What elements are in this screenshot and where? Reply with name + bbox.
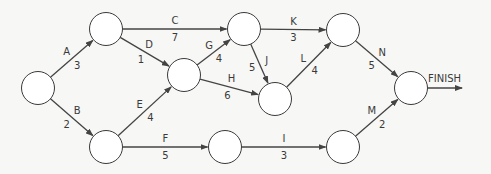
- activity-duration-l: 4: [312, 65, 318, 76]
- event-node-n7: [259, 83, 292, 116]
- activity-duration-i: 3: [281, 150, 287, 161]
- activity-duration-g: 4: [216, 53, 222, 64]
- activity-arrow-b: [50, 99, 92, 136]
- activity-arrow-e: [118, 87, 171, 136]
- activity-duration-k: 3: [290, 32, 296, 43]
- activity-name-i: I: [283, 133, 286, 144]
- activity-name-h: H: [228, 73, 236, 84]
- network-diagram: A3B2C7D1E4F5G4H6I3J5K3L4M2N5 FINISH: [0, 0, 491, 174]
- activity-duration-m: 2: [379, 119, 385, 130]
- activity-name-f: F: [163, 133, 169, 144]
- activity-duration-b: 2: [64, 119, 70, 130]
- activity-name-b: B: [74, 105, 81, 116]
- event-node-n6: [327, 14, 360, 47]
- activity-name-c: C: [172, 15, 179, 26]
- activity-duration-n: 5: [369, 60, 375, 71]
- activity-name-a: A: [63, 46, 70, 57]
- finish-label: FINISH: [428, 73, 461, 84]
- activity-name-e: E: [136, 99, 142, 110]
- activity-name-m: M: [367, 105, 376, 116]
- activity-duration-d: 1: [138, 54, 144, 65]
- event-node-n2: [90, 13, 123, 46]
- activity-arrow-l: [287, 42, 331, 87]
- activity-name-g: G: [205, 40, 213, 51]
- activity-name-l: L: [301, 53, 307, 64]
- event-node-n3: [90, 131, 123, 164]
- activity-duration-a: 3: [74, 60, 80, 71]
- activity-duration-e: 4: [147, 112, 153, 123]
- event-node-n1: [22, 72, 55, 105]
- activity-name-k: K: [290, 16, 297, 27]
- activity-name-j: J: [264, 55, 268, 66]
- event-node-n5: [228, 13, 261, 46]
- event-node-n10: [395, 72, 428, 105]
- event-nodes: [22, 13, 428, 164]
- activity-name-n: N: [378, 47, 385, 58]
- activity-duration-j: 5: [249, 62, 255, 73]
- activity-duration-h: 6: [224, 90, 230, 101]
- activity-arrow-k: [260, 29, 325, 30]
- event-node-n9: [327, 131, 360, 164]
- activity-arrow-n: [356, 41, 398, 77]
- activity-duration-c: 7: [172, 32, 178, 43]
- activity-name-d: D: [145, 39, 153, 50]
- activity-arrow-a: [50, 40, 92, 77]
- event-node-n8: [209, 131, 242, 164]
- activity-arrow-g: [197, 40, 230, 65]
- activity-arrow-m: [355, 99, 397, 136]
- activity-duration-f: 5: [162, 150, 168, 161]
- event-node-n4: [168, 59, 201, 92]
